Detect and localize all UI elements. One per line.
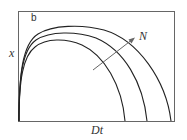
arrow-label: N: [138, 29, 148, 43]
y-axis-label: x: [8, 46, 15, 60]
curve-outer: [19, 26, 171, 121]
n-arrow-head-icon: [129, 38, 136, 44]
panel-label: b: [31, 12, 37, 23]
n-arrow-shaft: [93, 39, 133, 70]
curve-inner: [19, 40, 125, 121]
chart: b x Dt N: [0, 0, 187, 140]
curve-middle: [19, 33, 147, 121]
x-axis-label: Dt: [90, 123, 104, 137]
